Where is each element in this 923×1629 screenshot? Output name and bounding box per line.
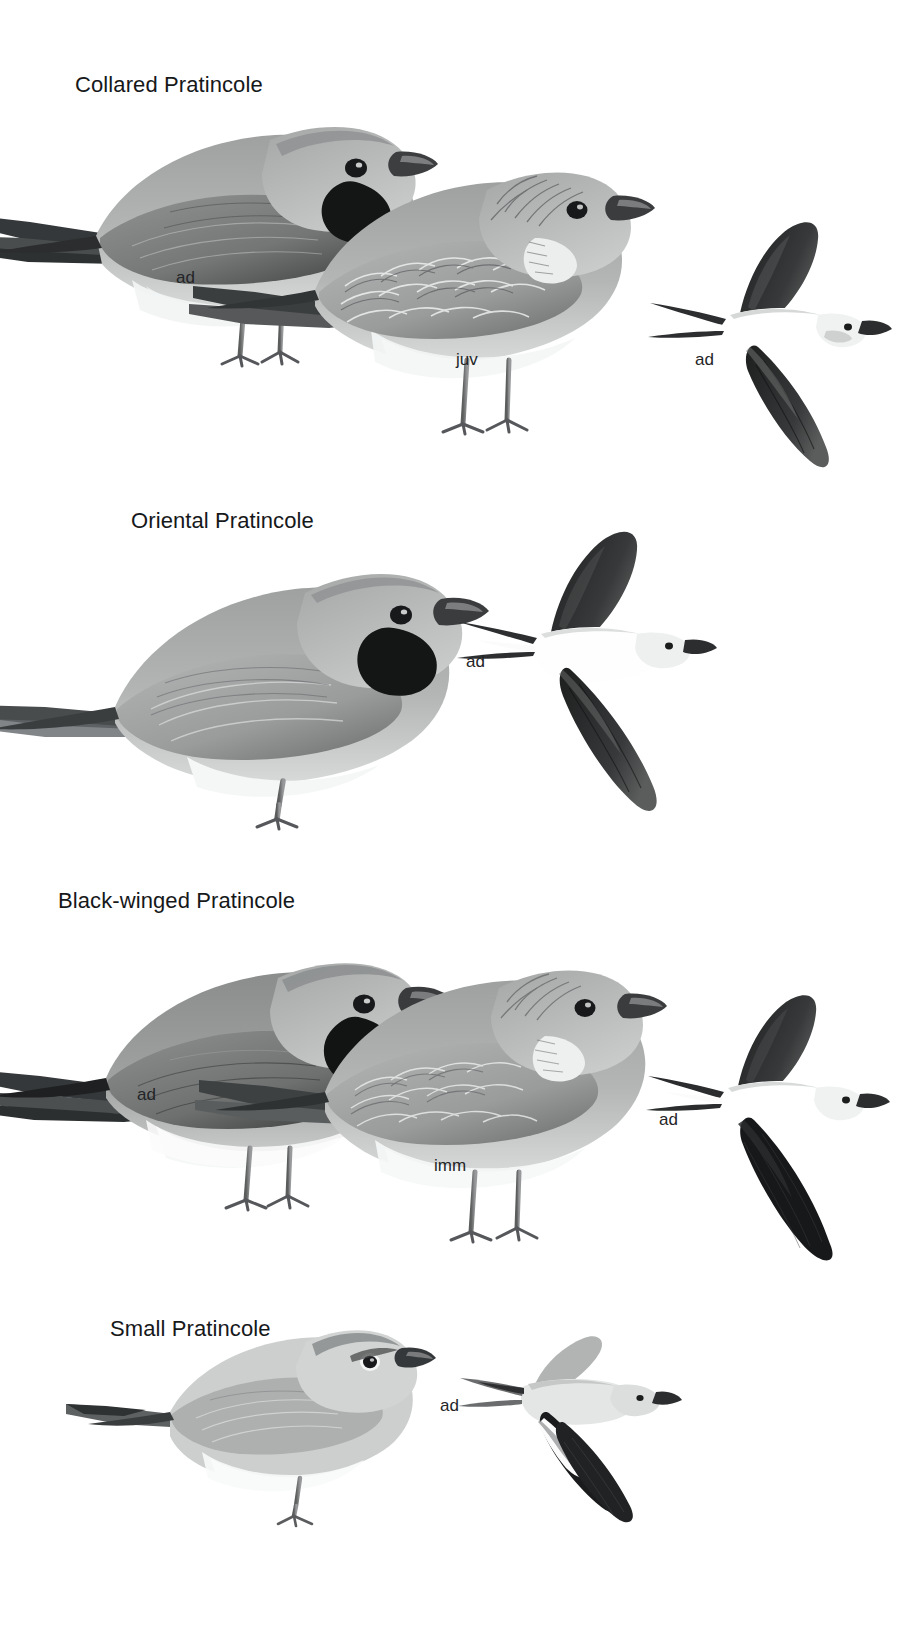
bird-collared-juv-standing (185, 80, 655, 450)
species-title-black-winged-pratincole: Black-winged Pratincole (58, 888, 295, 914)
age-label-small-ad-flight: ad (440, 1396, 459, 1416)
age-label-bw-ad-flight: ad (659, 1110, 678, 1130)
bird-oriental-ad-flight (455, 520, 785, 820)
field-guide-plate: Collared Pratincole (0, 0, 923, 1629)
age-label-bw-ad-standing: ad (137, 1085, 156, 1105)
age-label-collared-ad-standing: ad (176, 268, 195, 288)
species-title-collared-pratincole: Collared Pratincole (75, 72, 263, 98)
species-title-oriental-pratincole: Oriental Pratincole (131, 508, 314, 534)
bird-bw-ad-standing (0, 880, 460, 1220)
species-title-small-pratincole: Small Pratincole (110, 1316, 271, 1342)
age-label-collared-ad-flight: ad (695, 350, 714, 370)
bird-small-ad-flight (440, 1310, 720, 1540)
bird-bw-imm-standing (185, 880, 675, 1260)
bird-collared-ad-flight (630, 215, 920, 475)
age-label-oriental-ad-flight: ad (466, 652, 485, 672)
age-label-collared-juv-standing: juv (456, 350, 478, 370)
age-label-bw-imm-standing: imm (434, 1156, 466, 1176)
bird-small-ad-standing (50, 1300, 450, 1600)
